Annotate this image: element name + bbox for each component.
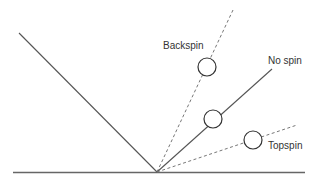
no-spin-label: No spin <box>268 55 302 66</box>
diagram-canvas <box>0 0 320 181</box>
topspin-label: Topspin <box>268 140 302 151</box>
topspin-ball <box>244 131 262 149</box>
backspin-ball <box>198 58 216 76</box>
incoming-trajectory <box>19 33 157 172</box>
no-spin-ball <box>204 110 222 128</box>
backspin-trajectory <box>157 10 233 172</box>
backspin-label: Backspin <box>163 40 204 51</box>
spin-bounce-diagram: Backspin No spin Topspin <box>0 0 320 181</box>
